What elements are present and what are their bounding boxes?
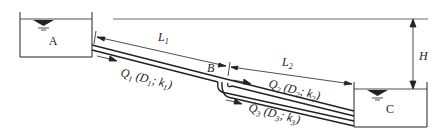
tank-c: C <box>354 82 427 127</box>
junction-b-label: B <box>207 61 215 75</box>
pipe-2-label: Q2 (D2; k2) <box>267 76 322 104</box>
head-h-label: H <box>418 49 429 63</box>
pipe-3-label: Q3 (D3; k3) <box>247 100 302 128</box>
tank-c-label: C <box>386 102 394 116</box>
length-l2-label: L2 <box>281 55 293 71</box>
tank-a-label: A <box>49 34 58 48</box>
water-surface-icon <box>367 90 388 100</box>
flow-arrow-icon <box>97 56 117 61</box>
pipe-1-label: Q1 (D1; k1) <box>119 65 174 93</box>
water-surface-icon <box>33 20 54 30</box>
tank-a: A <box>20 12 92 57</box>
pipe-network-diagram: A C L1 L2 <box>0 0 444 131</box>
head-h-dimension <box>410 19 416 89</box>
length-l1-label: L1 <box>157 30 169 46</box>
